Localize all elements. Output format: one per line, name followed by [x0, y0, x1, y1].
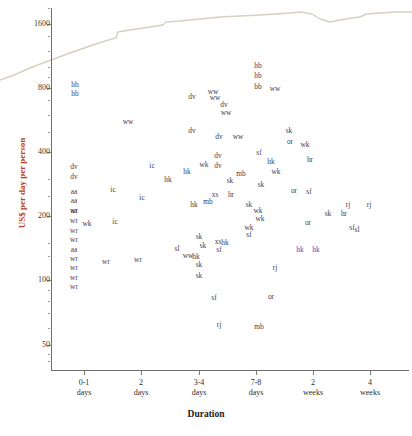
data-point-label: wk [300, 141, 309, 148]
data-point-label: sf [256, 149, 261, 156]
data-point-label: dv [215, 133, 222, 140]
data-point-label: wr [70, 236, 78, 243]
data-point-label: sk [196, 261, 203, 268]
x-axis-title: Duration [0, 409, 412, 419]
data-point-label: hb [71, 90, 78, 97]
data-point-label: wk [271, 168, 280, 175]
data-point-label: hr [228, 191, 234, 198]
data-point-label: sk [200, 242, 207, 249]
data-point-label: ic [139, 194, 144, 201]
y-axis-title: US$ per day per person [17, 113, 27, 253]
data-point-label: hk [183, 168, 190, 175]
data-point-label: hb [254, 72, 261, 79]
data-point-label: sl [175, 245, 180, 252]
data-point-label: wr [70, 264, 78, 271]
data-point-label: hr [341, 210, 347, 217]
data-point-label: sk [325, 210, 332, 217]
data-point-label: wr [102, 258, 110, 265]
data-point-label: wr [70, 217, 78, 224]
data-point-label: aa [71, 188, 78, 195]
data-point-label: sk [258, 181, 265, 188]
data-point-label: dv [188, 127, 195, 134]
chart-root: 160080040020010050 0-1days2days3-4days7-… [0, 0, 412, 436]
data-point-label: hk [164, 176, 171, 183]
data-point-label: ww [123, 118, 134, 125]
data-point-label: ww [233, 133, 244, 140]
data-point-label: wr [134, 256, 142, 263]
data-point-label: sk [196, 272, 203, 279]
data-point-label: hk [312, 246, 319, 253]
data-point-label: sf [306, 188, 311, 195]
data-point-label: ww [183, 252, 194, 259]
data-point-label: dv [70, 173, 77, 180]
data-point-label: wk [255, 215, 264, 222]
data-point-label: sf [246, 231, 251, 238]
data-point-label: sf [211, 294, 216, 301]
data-point-label: ic [110, 186, 115, 193]
data-point-label: sk [246, 201, 253, 208]
data-point-label: sl [355, 226, 360, 233]
data-point-label: hb [254, 62, 261, 69]
data-point-label: sk [227, 177, 234, 184]
data-point-label: mb [254, 323, 263, 330]
data-point-label: hk [190, 201, 197, 208]
data-point-label: wk [82, 220, 91, 227]
data-point-label: bb [254, 83, 261, 90]
data-point-label: ww [221, 109, 232, 116]
data-point-label: or [268, 293, 274, 300]
data-point-label: mb [236, 170, 245, 177]
data-point-label: dv [220, 101, 227, 108]
data-point-label: wk [199, 161, 208, 168]
data-point-label: hk [221, 239, 228, 246]
data-point-label: hk [296, 246, 303, 253]
data-point-label: aa [71, 197, 78, 204]
data-point-label: sk [196, 233, 203, 240]
data-point-label: hr [307, 156, 313, 163]
data-point-label: wr [70, 227, 78, 234]
data-point-label: wr [70, 274, 78, 281]
data-point-label: or [291, 187, 297, 194]
data-point-label: wr [70, 255, 78, 262]
data-point-label: or [287, 138, 293, 145]
data-point-label: aa [71, 207, 78, 214]
data-point-label: ww [270, 85, 281, 92]
data-point-label: dv [70, 163, 77, 170]
plot-area: hbhbhbhbbbwwwwwwwwwwwwdvdvdvdvdvdvdvdvic… [0, 0, 412, 436]
data-point-label: wr [70, 283, 78, 290]
data-point-label: rj [367, 201, 372, 208]
data-point-label: aa [71, 246, 78, 253]
data-point-label: dv [214, 162, 221, 169]
data-point-label: hb [71, 81, 78, 88]
data-point-label: rj [273, 264, 278, 271]
data-point-label: ww [210, 94, 221, 101]
data-point-label: ic [112, 218, 117, 225]
data-point-label: dv [188, 93, 195, 100]
data-point-label: sf [216, 246, 221, 253]
data-point-label: dv [214, 152, 221, 159]
data-point-label: rj [217, 321, 222, 328]
data-point-label: sk [286, 127, 293, 134]
data-point-label: rj [346, 201, 351, 208]
data-point-label: ic [149, 162, 154, 169]
data-point-label: mb [203, 198, 212, 205]
data-point-label: hk [267, 158, 274, 165]
data-point-label: or [305, 219, 311, 226]
